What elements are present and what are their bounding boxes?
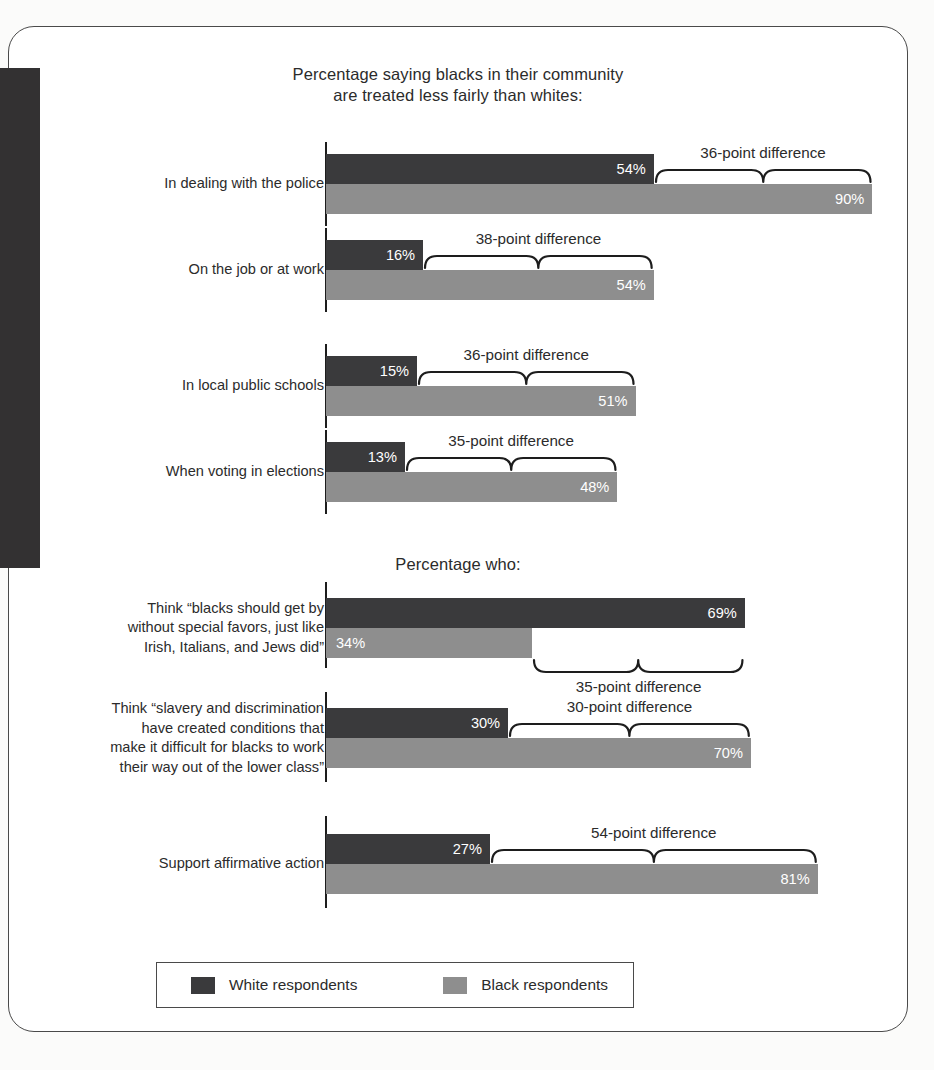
- bar-value-black: 70%: [714, 745, 743, 761]
- category-label: When voting in elections: [24, 462, 324, 482]
- category-label-line: Irish, Italians, and Jews did”: [24, 638, 324, 658]
- category-label-line: have created conditions that: [24, 719, 324, 739]
- section-title-1: Percentage saying blacks in their commun…: [8, 64, 908, 106]
- bar-pair: 69%34%: [326, 598, 745, 658]
- bar-value-black: 34%: [336, 635, 365, 651]
- bar-value-white: 30%: [471, 715, 500, 731]
- bar-black-respondents[interactable]: 54%: [326, 270, 654, 300]
- category-label-line: their way out of the lower class”: [24, 758, 324, 778]
- bar-white-respondents[interactable]: 69%: [326, 598, 745, 628]
- section-title-1-line-2: are treated less fairly than whites:: [8, 85, 908, 106]
- bar-value-white: 15%: [380, 363, 409, 379]
- category-label-line: Support affirmative action: [24, 854, 324, 874]
- bar-group: Support affirmative action27%81%54-point…: [8, 834, 908, 898]
- category-label-line: Think “slavery and discrimination: [24, 699, 324, 719]
- category-label-line: When voting in elections: [24, 462, 324, 482]
- bar-value-white: 16%: [386, 247, 415, 263]
- bar-white-respondents[interactable]: 15%: [326, 356, 417, 386]
- brace-icon: [532, 658, 744, 676]
- bar-pair: 27%81%: [326, 834, 818, 894]
- section-title-1-line-1: Percentage saying blacks in their commun…: [8, 64, 908, 85]
- bar-black-respondents[interactable]: 51%: [326, 386, 636, 416]
- category-label: In local public schools: [24, 376, 324, 396]
- bar-pair: 13%48%: [326, 442, 617, 502]
- bar-value-white: 69%: [708, 605, 737, 621]
- bar-group: In dealing with the police54%90%36-point…: [8, 154, 908, 218]
- category-label-line: On the job or at work: [24, 260, 324, 280]
- legend-item-white-respondents: White respondents: [191, 976, 357, 994]
- bar-black-respondents[interactable]: 34%: [326, 628, 532, 658]
- bar-value-black: 81%: [780, 871, 809, 887]
- bar-group: Think “slavery and discriminationhave cr…: [8, 708, 908, 772]
- category-label-line: make it difficult for blacks to work: [24, 738, 324, 758]
- bar-value-white: 13%: [368, 449, 397, 465]
- bar-pair: 16%54%: [326, 240, 654, 300]
- bar-value-black: 51%: [598, 393, 627, 409]
- legend-label-white: White respondents: [229, 976, 357, 994]
- bar-white-respondents[interactable]: 16%: [326, 240, 423, 270]
- category-label-line: Think “blacks should get by: [24, 599, 324, 619]
- category-label-line: without special favors, just like: [24, 618, 324, 638]
- category-label: Support affirmative action: [24, 854, 324, 874]
- chart-legend: White respondents Black respondents: [156, 962, 634, 1008]
- bar-value-white: 27%: [453, 841, 482, 857]
- legend-swatch-black-icon: [443, 977, 467, 994]
- bar-group: In local public schools15%51%36-point di…: [8, 356, 908, 420]
- bar-black-respondents[interactable]: 70%: [326, 738, 751, 768]
- bar-white-respondents[interactable]: 30%: [326, 708, 508, 738]
- category-label: On the job or at work: [24, 260, 324, 280]
- bar-white-respondents[interactable]: 13%: [326, 442, 405, 472]
- bar-pair: 30%70%: [326, 708, 751, 768]
- category-label-line: In dealing with the police: [24, 174, 324, 194]
- legend-label-black: Black respondents: [481, 976, 608, 994]
- bar-group: Think “blacks should get bywithout speci…: [8, 598, 908, 662]
- category-label: Think “blacks should get bywithout speci…: [24, 599, 324, 658]
- bar-pair: 15%51%: [326, 356, 636, 416]
- section-title-2: Percentage who:: [8, 554, 908, 575]
- bar-black-respondents[interactable]: 81%: [326, 864, 818, 894]
- bar-chart-figure: Percentage saying blacks in their commun…: [8, 26, 908, 1032]
- bar-pair: 54%90%: [326, 154, 872, 214]
- bar-value-black: 90%: [835, 191, 864, 207]
- bar-black-respondents[interactable]: 90%: [326, 184, 872, 214]
- category-label: Think “slavery and discriminationhave cr…: [24, 699, 324, 777]
- bar-value-white: 54%: [617, 161, 646, 177]
- bar-white-respondents[interactable]: 54%: [326, 154, 654, 184]
- legend-item-black-respondents: Black respondents: [443, 976, 608, 994]
- bar-group: When voting in elections13%48%35-point d…: [8, 442, 908, 506]
- bar-black-respondents[interactable]: 48%: [326, 472, 617, 502]
- difference-annotation: 35-point difference: [532, 658, 744, 676]
- category-label-line: In local public schools: [24, 376, 324, 396]
- bar-white-respondents[interactable]: 27%: [326, 834, 490, 864]
- category-label: In dealing with the police: [24, 174, 324, 194]
- bar-value-black: 54%: [617, 277, 646, 293]
- bar-group: On the job or at work16%54%38-point diff…: [8, 240, 908, 304]
- difference-label: 35-point difference: [532, 678, 744, 695]
- bar-value-black: 48%: [580, 479, 609, 495]
- legend-swatch-white-icon: [191, 977, 215, 994]
